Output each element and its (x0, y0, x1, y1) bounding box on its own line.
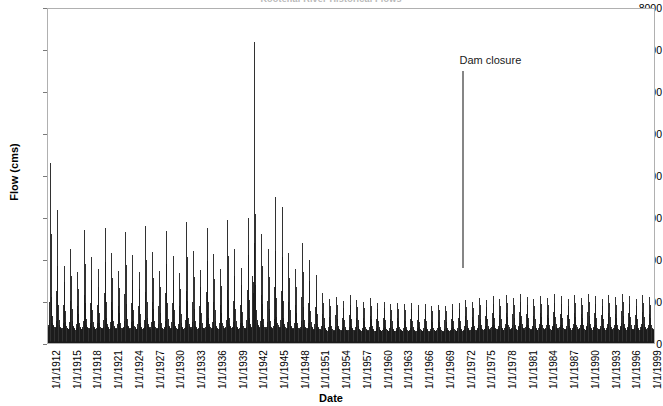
x-axis-title: Date (0, 392, 662, 404)
flow-series (48, 9, 654, 343)
chart-title: Kootenai River Historical Flows (0, 0, 662, 3)
x-tick-label: 1/1/1930 (175, 350, 186, 389)
x-tick-label: 1/1/1984 (548, 350, 559, 389)
x-tick-label: 1/1/1978 (507, 350, 518, 389)
x-tick-label: 1/1/1969 (445, 350, 456, 389)
x-tick-label: 1/1/1918 (92, 350, 103, 389)
y-tick-mark (43, 344, 47, 345)
x-tick-label: 1/1/1957 (362, 350, 373, 389)
plot-area (47, 8, 655, 344)
x-tick-label: 1/1/1954 (341, 350, 352, 389)
x-tick-label: 1/1/1963 (403, 350, 414, 389)
x-tick-label: 1/1/1975 (486, 350, 497, 389)
x-tick-label: 1/1/1915 (72, 350, 83, 389)
x-tick-label: 1/1/1939 (238, 350, 249, 389)
y-axis-title: Flow (cms) (8, 22, 20, 322)
x-tick-label: 1/1/1945 (279, 350, 290, 389)
dam-closure-label: Dam closure (460, 54, 522, 66)
x-tick-label: 1/1/1921 (113, 350, 124, 389)
x-tick-label: 1/1/1927 (155, 350, 166, 389)
x-tick-label: 1/1/1960 (383, 350, 394, 389)
x-tick-label: 1/1/1951 (320, 350, 331, 389)
x-tick-label: 1/1/1993 (611, 350, 622, 389)
x-tick-label: 1/1/1912 (51, 350, 62, 389)
x-tick-label: 1/1/1966 (424, 350, 435, 389)
x-tick-label: 1/1/1981 (528, 350, 539, 389)
x-tick-label: 1/1/1987 (569, 350, 580, 389)
x-tick-label: 1/1/1933 (196, 350, 207, 389)
x-tick-label: 1/1/1936 (217, 350, 228, 389)
x-tick-label: 1/1/1999 (652, 350, 663, 389)
x-tick-label: 1/1/1942 (258, 350, 269, 389)
x-tick-label: 1/1/1924 (134, 350, 145, 389)
series-canvas (48, 9, 654, 343)
x-tick-label: 1/1/1948 (300, 350, 311, 389)
x-tick-label: 1/1/1990 (590, 350, 601, 389)
x-tick-label: 1/1/1972 (466, 350, 477, 389)
x-tick-label: 1/1/1996 (631, 350, 642, 389)
dam-closure-line (462, 71, 464, 268)
